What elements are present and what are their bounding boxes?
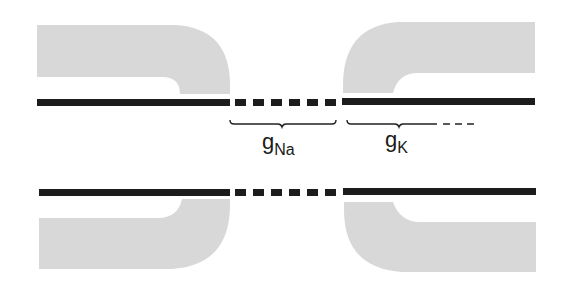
membrane-bottom-dash (325, 189, 336, 196)
membrane-bottom-dash (289, 189, 300, 196)
membrane-top-dash (307, 99, 318, 106)
brace-g-na (230, 120, 336, 127)
label-g-k-main: g (385, 127, 397, 152)
membrane-top-dash (235, 99, 246, 106)
label-g-na-main: g (262, 129, 274, 154)
membrane-bottom-left-solid (39, 189, 230, 196)
membrane-bottom-dash (253, 189, 264, 196)
membrane-bottom-dash (307, 189, 318, 196)
braces (230, 120, 475, 127)
label-g-na: gNa (262, 129, 295, 158)
membrane-top-left-solid (37, 99, 230, 106)
label-g-k-subscript: K (397, 139, 408, 156)
label-g-na-subscript: Na (274, 141, 295, 158)
membrane-bottom-right-solid (343, 188, 536, 195)
axon-conductance-diagram: gNa gK (0, 0, 566, 290)
sheath-top-right (343, 22, 535, 93)
membrane-top-dash (253, 99, 264, 106)
membrane-bottom-dash (271, 189, 282, 196)
membrane-top-right-solid (342, 98, 535, 105)
sheath-bottom-left (39, 199, 230, 269)
membrane-bottom-dash (235, 189, 246, 196)
brace-g-k (347, 120, 437, 127)
sheath-top-left (37, 25, 230, 94)
label-g-k: gK (385, 127, 408, 156)
membrane-bottom (39, 188, 536, 196)
sheath-bottom-right (344, 202, 536, 272)
membrane-top-dash (289, 99, 300, 106)
membrane-top-dash (271, 99, 282, 106)
membrane-top (37, 98, 535, 106)
membrane-top-dash (325, 99, 336, 106)
